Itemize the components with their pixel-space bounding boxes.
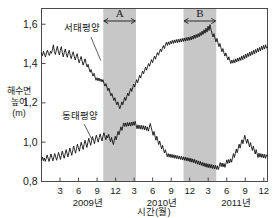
x-axis-year-label: 2009년	[73, 197, 103, 208]
series-leader-line	[91, 37, 101, 61]
band-annotations: AB	[104, 7, 216, 24]
x-tick-label: 3	[57, 185, 62, 196]
series-label-east-pacific: 동태평양	[62, 110, 98, 121]
y-axis-title-line: 높이	[11, 97, 27, 107]
series-line-east-pacific	[42, 121, 268, 169]
x-tick-label: 12	[110, 185, 121, 196]
x-tick-label: 9	[169, 185, 174, 196]
series-label-west-pacific: 서태평양	[64, 22, 100, 33]
x-tick-label: 6	[150, 185, 155, 196]
x-tick-label: 12	[184, 185, 195, 196]
y-tick-label: 0,8	[23, 175, 38, 187]
chart-svg: 서태평양동태평양 AB 1,61,41,21,00,8 369123691236…	[0, 0, 276, 218]
series-line-west-pacific	[42, 25, 268, 109]
x-tick-label: 6	[224, 185, 229, 196]
series-annotations: 서태평양동태평양	[62, 22, 100, 140]
x-tick-label: 9	[94, 185, 99, 196]
y-tick-label: 1,0	[23, 136, 38, 148]
band-label-a: A	[116, 7, 124, 19]
y-axis-title-line: 해수면	[7, 86, 31, 96]
x-axis-year-label: 2011년	[221, 197, 250, 208]
band-label-b: B	[196, 7, 203, 19]
y-tick-label: 1,6	[23, 18, 38, 30]
data-series-group	[42, 25, 268, 170]
x-axis-tick-labels: 369123691236912	[57, 185, 269, 196]
y-tick-label: 1,4	[23, 57, 38, 69]
x-tick-label: 9	[243, 185, 248, 196]
x-tick-label: 6	[76, 185, 81, 196]
y-axis-title-line: (m)	[12, 108, 26, 118]
x-tick-label: 3	[131, 185, 136, 196]
x-axis-ticks	[60, 178, 264, 182]
sea-level-chart-figure: 서태평양동태평양 AB 1,61,41,21,00,8 369123691236…	[0, 0, 276, 218]
x-axis-title-label: 시간(월)	[137, 206, 170, 217]
x-tick-label: 12	[259, 185, 270, 196]
x-tick-label: 3	[206, 185, 211, 196]
series-leader-line	[84, 124, 92, 140]
shaded-band-a	[103, 9, 136, 182]
